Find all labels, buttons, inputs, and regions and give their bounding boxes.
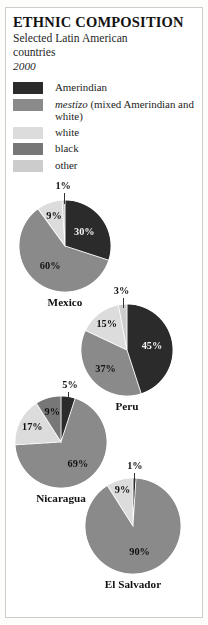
legend-item: other: [13, 159, 197, 172]
pie-slice-label: 30%: [74, 227, 95, 237]
label-leader-line: [123, 298, 124, 307]
pie-country-label: El Salvador: [85, 578, 181, 590]
pie-slice-label: 1%: [55, 181, 70, 191]
legend-item-label: other: [55, 159, 77, 171]
ethnic-composition-figure: ETHNIC COMPOSITION Selected Latin Americ…: [0, 0, 208, 625]
pie-slice-label: 90%: [129, 546, 150, 556]
pie-slice-label: 3%: [114, 286, 129, 296]
legend-item: Amerindian: [13, 81, 197, 94]
pie-slice-label: 17%: [22, 422, 43, 432]
legend-swatch: [13, 143, 43, 155]
pie-slice-label: 37%: [95, 364, 116, 374]
legend-item: white: [13, 126, 197, 139]
figure-year: 2000: [13, 60, 197, 72]
pie-chart-group: 30%60%9%1%Mexico45%37%15%3%Peru5%69%17%9…: [13, 178, 197, 578]
figure-subtitle: Selected Latin American countries: [13, 32, 163, 59]
legend-item-label: mestizo (mixed Amerindian and white): [55, 98, 197, 123]
label-leader-line: [68, 392, 69, 400]
pie-slices: [19, 200, 111, 292]
label-leader-line: [134, 473, 135, 482]
pie-slice-label: 69%: [68, 459, 89, 469]
pie-slice-label: 9%: [115, 485, 130, 495]
pie-chart: 30%60%9%1%Mexico: [19, 200, 111, 312]
legend-item-label: black: [55, 142, 79, 154]
legend-item: mestizo (mixed Amerindian and white): [13, 98, 197, 123]
legend-swatch: [13, 160, 43, 172]
pie-slice-label: 60%: [40, 261, 61, 271]
legend: Amerindianmestizo (mixed Amerindian and …: [13, 81, 197, 172]
legend-item-label: Amerindian: [55, 81, 107, 93]
legend-swatch: [13, 82, 43, 94]
legend-item: black: [13, 142, 197, 155]
pie-slice-label: 9%: [46, 211, 61, 221]
pie-slice-label: 15%: [96, 319, 117, 329]
figure-title: ETHNIC COMPOSITION: [13, 15, 197, 30]
legend-swatch: [13, 127, 43, 139]
pie-slices: [85, 478, 181, 574]
pie-slice-label: 9%: [45, 407, 60, 417]
legend-swatch: [13, 99, 43, 111]
pie-slices: [15, 396, 107, 488]
legend-item-label: white: [55, 126, 79, 138]
pie-slice-label: 5%: [62, 380, 77, 390]
pie-slice-label: 45%: [142, 341, 163, 351]
label-leader-line: [64, 193, 65, 203]
pie-slice-label: 1%: [127, 460, 142, 470]
pie-chart: 1%90%9%El Salvador: [85, 478, 181, 594]
